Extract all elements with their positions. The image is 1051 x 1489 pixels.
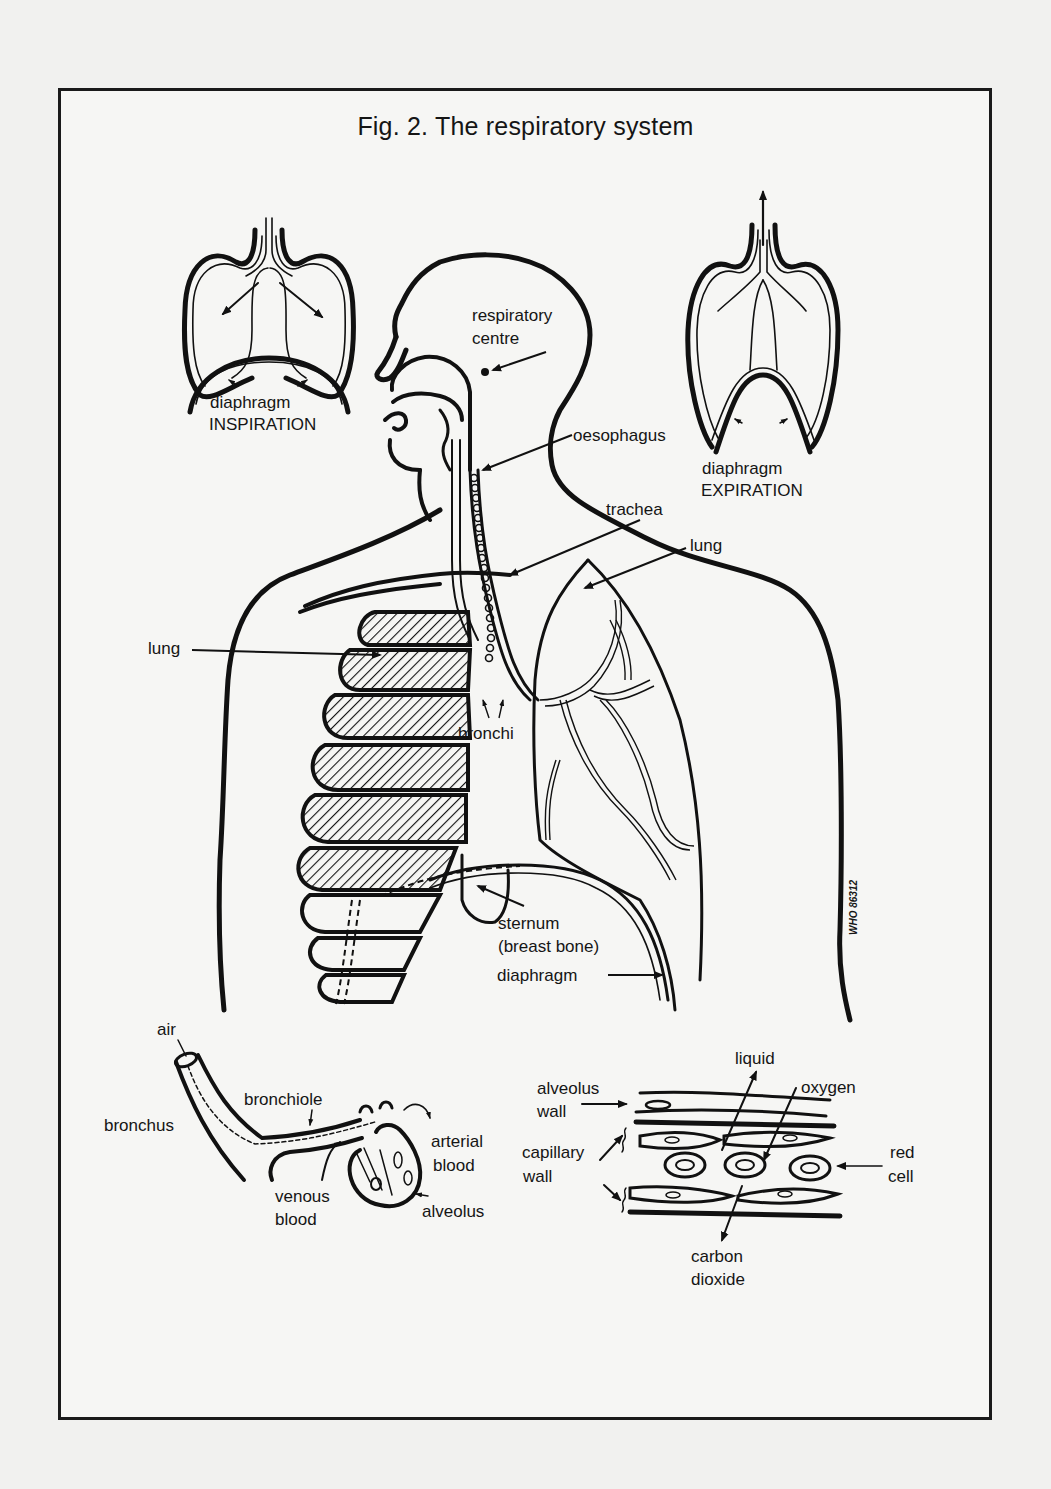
trachea-label: trachea xyxy=(606,498,663,521)
respiratory-illustration xyxy=(0,0,1051,1489)
bronchi-label: bronchi xyxy=(458,722,514,745)
respiratory-centre-label-line1: respiratory xyxy=(472,304,552,327)
venous-blood-label-line1: venous xyxy=(275,1185,330,1208)
expiration-diaphragm-label: diaphragm xyxy=(702,457,782,480)
alveolus-wall-label-line1: alveolus xyxy=(537,1077,599,1100)
respiratory-centre-dot xyxy=(481,368,489,376)
inspiration-label: INSPIRATION xyxy=(209,413,316,436)
inspiration-diaphragm-label: diaphragm xyxy=(210,391,290,414)
diaphragm-label: diaphragm xyxy=(497,964,577,987)
red-cell-label-line2: cell xyxy=(888,1165,914,1188)
oesophagus-label: oesophagus xyxy=(573,424,666,447)
bronchial-tree xyxy=(540,600,694,880)
oxygen-label: oxygen xyxy=(801,1076,856,1099)
who-credit: WHO 86312 xyxy=(848,880,859,935)
expiration-lungs-diagram xyxy=(688,192,838,452)
carbon-dioxide-label-line2: dioxide xyxy=(691,1268,745,1291)
carbon-dioxide-label-line1: carbon xyxy=(691,1245,743,1268)
air-label: air xyxy=(157,1018,176,1041)
expiration-label: EXPIRATION xyxy=(701,479,803,502)
lung-right-label: lung xyxy=(690,534,722,557)
sternum-label-line1: sternum xyxy=(498,912,559,935)
bronchus-alveolus-diagram xyxy=(174,1040,430,1206)
venous-blood-label-line2: blood xyxy=(275,1208,317,1231)
alveolus-label: alveolus xyxy=(422,1200,484,1223)
lung-left-label: lung xyxy=(148,637,180,660)
inspiration-lungs-diagram xyxy=(184,218,353,412)
sternum-label-line2: (breast bone) xyxy=(498,935,599,958)
arterial-blood-label-line2: blood xyxy=(433,1154,475,1177)
capillary-wall-label-line2: wall xyxy=(523,1165,552,1188)
red-cell-label-line1: red xyxy=(890,1141,915,1164)
respiratory-centre-label-line2: centre xyxy=(472,327,519,350)
bronchus-label: bronchus xyxy=(104,1114,174,1137)
liquid-label: liquid xyxy=(735,1047,775,1070)
capillary-wall-label-line1: capillary xyxy=(522,1141,584,1164)
ribcage-with-lung xyxy=(298,612,470,1002)
arterial-blood-label-line1: arterial xyxy=(431,1130,483,1153)
alveolus-wall-label-line2: wall xyxy=(537,1100,566,1123)
bronchiole-label: bronchiole xyxy=(244,1088,322,1111)
